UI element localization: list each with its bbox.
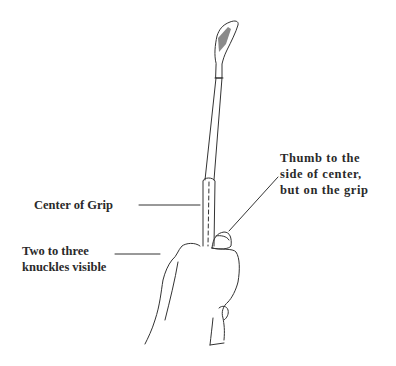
thumb-label: Thumb to the side of center, but on the … (280, 150, 369, 198)
thumb-label-line-2: side of center, (280, 166, 369, 182)
knuckles-label-line-1: Two to three (22, 243, 106, 259)
hand (145, 243, 239, 345)
center-of-grip-label: Center of Grip (34, 197, 113, 213)
knuckles-label: Two to three knuckles visible (22, 243, 106, 275)
thumb-label-line-3: but on the grip (280, 182, 369, 198)
thumb-label-line-1: Thumb to the (280, 150, 369, 166)
club-head (215, 21, 238, 78)
club-shaft (205, 78, 223, 180)
knuckles-label-line-2: knuckles visible (22, 259, 106, 275)
golf-grip-diagram: Thumb to the side of center, but on the … (0, 0, 396, 366)
club-grip (203, 178, 215, 246)
leader-lines (115, 177, 278, 254)
thumb (212, 232, 231, 249)
